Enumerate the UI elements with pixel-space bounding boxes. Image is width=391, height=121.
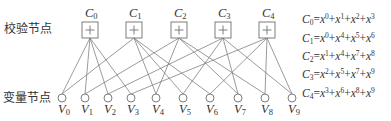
check-nodes-label: 校验节点 — [4, 21, 52, 36]
variable-node: V6 — [206, 94, 218, 117]
variable-node-label: V0 — [58, 102, 70, 117]
variable-node: V0 — [58, 94, 70, 117]
edge-c2-v7 — [179, 38, 238, 94]
edge-c4-v6 — [210, 38, 267, 94]
check-nodes: C0C1C2C3C4 — [82, 6, 275, 38]
variable-node-label: V6 — [206, 102, 218, 117]
parity-equations: C0=x0+x1+x2+x3C1=x0+x4+x5+x6C2=x1+x4+x7+… — [302, 12, 375, 101]
edge-c1-v0 — [62, 38, 134, 94]
check-node: C4 — [259, 6, 275, 38]
edge-c3-v9 — [223, 38, 292, 94]
check-node: C1 — [126, 6, 142, 38]
variable-node-circle — [104, 94, 112, 102]
edge-c4-v8 — [265, 38, 267, 94]
check-node-label: C1 — [129, 6, 142, 21]
variable-node-label: V9 — [288, 102, 300, 117]
variable-node-label: V4 — [152, 102, 165, 117]
variable-node-label: V5 — [179, 102, 191, 117]
variable-node-circle — [127, 94, 135, 102]
variable-node: V5 — [179, 94, 191, 117]
check-node-label: C2 — [174, 6, 187, 21]
check-node: C0 — [82, 6, 98, 38]
variable-node-label: V7 — [234, 102, 246, 117]
edge-c2-v8 — [179, 38, 265, 94]
check-node-label: C0 — [85, 6, 98, 21]
edges — [62, 38, 292, 94]
variable-node: V2 — [104, 94, 116, 117]
check-node: C3 — [215, 6, 231, 38]
parity-equation: C3=x2+x5+x7+x9 — [302, 67, 375, 82]
variable-node-circle — [152, 94, 160, 102]
variable-node: V4 — [152, 94, 165, 117]
variable-node-circle — [261, 94, 269, 102]
tanner-graph: 校验节点 变量节点 C0C1C2C3C4 V0V1V2V3V4V5V6V7V8V… — [0, 0, 391, 121]
variable-node-circle — [288, 94, 296, 102]
variable-node-circle — [179, 94, 187, 102]
variable-node-label: V8 — [261, 102, 273, 117]
edge-c3-v5 — [183, 38, 223, 94]
parity-equation: C4=x3+x6+x8+x9 — [302, 86, 375, 101]
variable-node-label: V1 — [81, 102, 93, 117]
parity-equation: C0=x0+x1+x2+x3 — [302, 12, 375, 27]
check-node: C2 — [171, 6, 187, 38]
variable-node-circle — [81, 94, 89, 102]
check-node-label: C3 — [218, 6, 231, 21]
variable-node-circle — [234, 94, 242, 102]
variable-node: V1 — [81, 94, 93, 117]
check-node-label: C4 — [262, 6, 275, 21]
variable-nodes: V0V1V2V3V4V5V6V7V8V9 — [58, 94, 300, 117]
variable-node: V9 — [288, 94, 300, 117]
variable-node-circle — [58, 94, 66, 102]
variable-node-label: V2 — [104, 102, 116, 117]
variable-node: V8 — [261, 94, 273, 117]
variable-nodes-label: 变量节点 — [3, 90, 51, 105]
variable-node-label: V3 — [127, 102, 139, 117]
variable-node: V3 — [127, 94, 139, 117]
parity-equation: C1=x0+x4+x5+x6 — [302, 31, 375, 46]
variable-node-circle — [206, 94, 214, 102]
edge-c3-v7 — [223, 38, 238, 94]
variable-node: V7 — [234, 94, 246, 117]
parity-equation: C2=x1+x4+x7+x8 — [302, 49, 375, 64]
edge-c4-v9 — [267, 38, 292, 94]
